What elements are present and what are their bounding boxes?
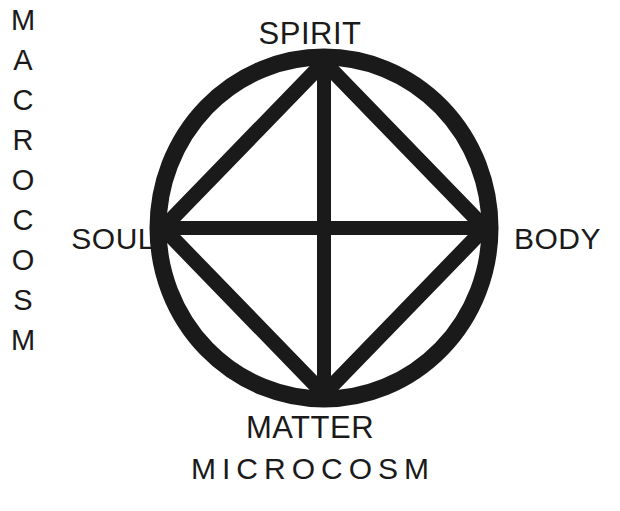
node-label-matter: MATTER xyxy=(0,410,620,446)
diagram-canvas: SPIRIT SOUL BODY MATTER MICROCOSM M A C … xyxy=(0,0,620,511)
caption-microcosm: MICROCOSM xyxy=(0,452,620,486)
node-label-soul: SOUL xyxy=(0,222,155,256)
node-label-spirit: SPIRIT xyxy=(0,16,620,52)
node-label-body: BODY xyxy=(514,222,620,256)
